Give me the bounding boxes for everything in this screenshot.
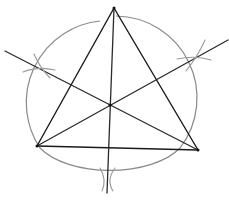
vertex-bottom-right: [197, 149, 200, 152]
vertex-top: [113, 7, 116, 10]
triangle-circumcenter-diagram: [0, 0, 229, 201]
bisector-right-upper: [37, 40, 228, 146]
circumcenter-point: [108, 103, 111, 106]
triangle-edge-bottom: [37, 146, 198, 150]
bisector-vertical: [107, 8, 114, 193]
construction-mark-right: [177, 40, 211, 71]
vertex-bottom-left: [36, 145, 39, 148]
